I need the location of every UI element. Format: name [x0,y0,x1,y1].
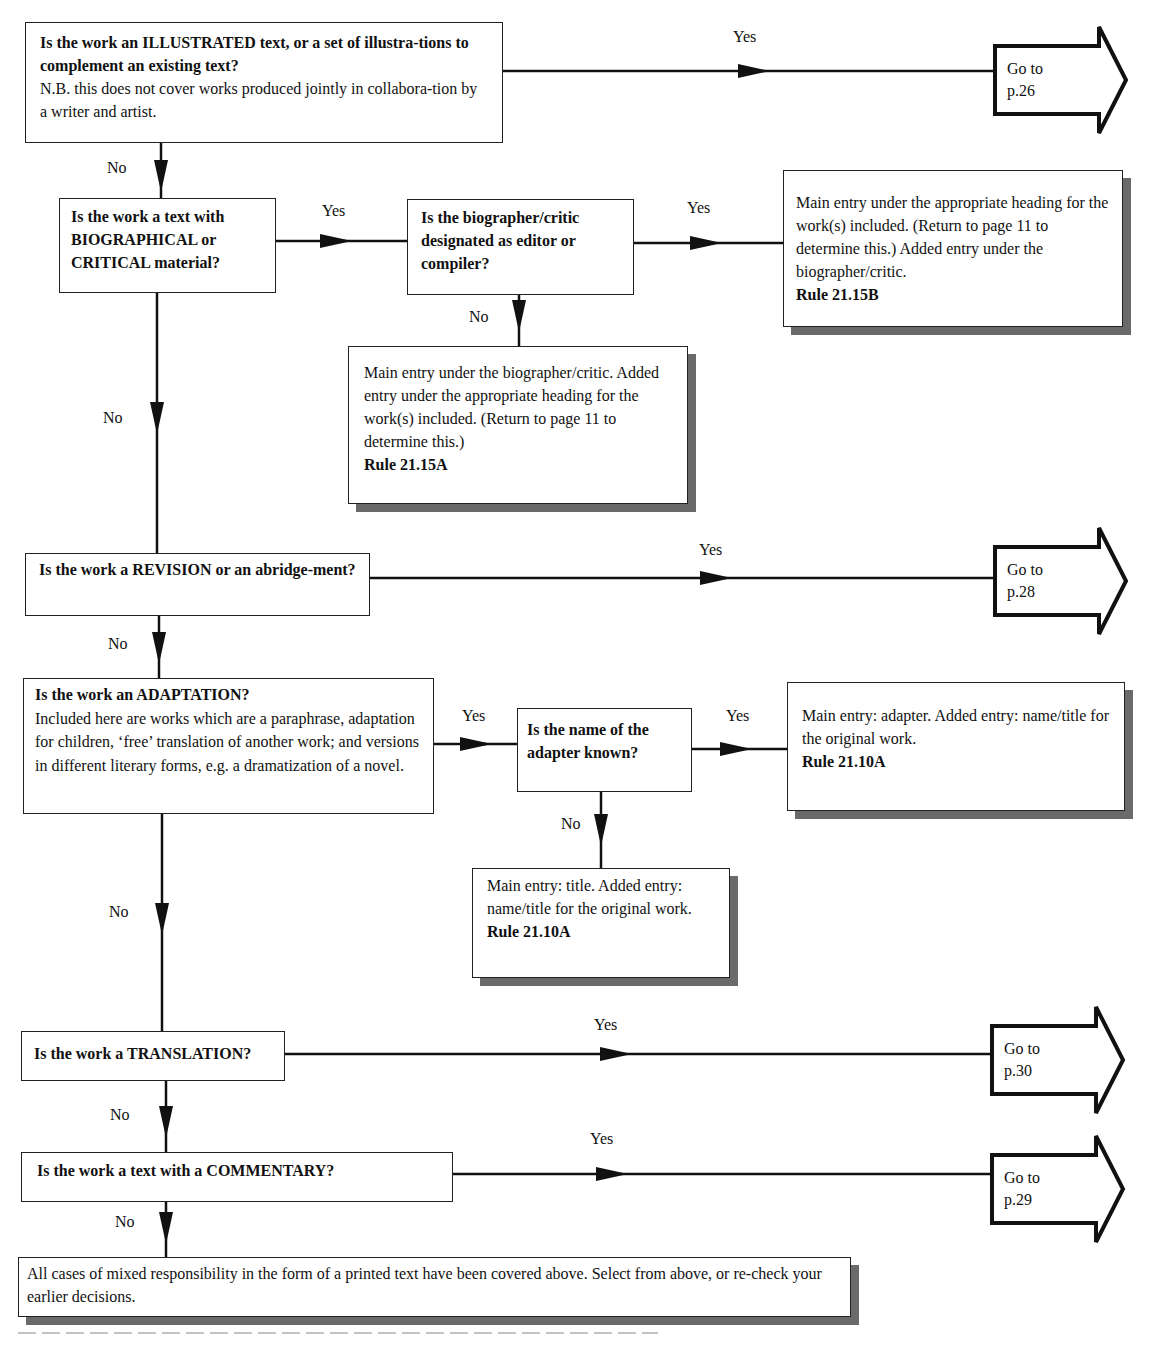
biographer-editor-question-text: Is the biographer/critic designated as e… [421,209,579,272]
rule-21-15B-label: Rule 21.15B [796,283,1110,306]
node-rule-21-15A: Main entry under the biographer/critic. … [348,346,688,504]
edge-label-no: No [107,159,127,177]
revision-question-text: Is the work a REVISION or an abridge-men… [39,561,356,578]
edge-label-yes: Yes [687,199,710,217]
node-biographical-question: Is the work a text with BIOGRAPHICAL or … [59,198,276,293]
rule-21-10A-title-text: Main entry: title. Added entry: name/tit… [487,874,715,920]
rule-21-15A-text: Main entry under the biographer/critic. … [364,361,672,453]
adapter-known-question-text: Is the name of the adapter known? [527,721,649,761]
edge-label-yes: Yes [699,541,722,559]
all-covered-text: All cases of mixed responsibility in the… [27,1262,842,1308]
goto-p30-text: Go top.30 [1004,1038,1040,1082]
adaptation-question-text: Is the work an ADAPTATION? [35,683,422,707]
rule-21-10A-adapter-label: Rule 21.10A [802,750,1110,773]
node-illustrated-question: Is the work an ILLUSTRATED text, or a se… [25,22,503,143]
goto-p26-text: Go top.26 [1007,58,1043,102]
biographical-question-text: Is the work a text with BIOGRAPHICAL or … [71,208,224,271]
rule-21-15B-text: Main entry under the appropriate heading… [796,191,1110,283]
edge-label-yes: Yes [462,707,485,725]
node-rule-21-10A-adapter: Main entry: adapter. Added entry: name/t… [787,682,1125,811]
edge-label-yes: Yes [733,28,756,46]
node-translation-question: Is the work a TRANSLATION? [21,1031,285,1081]
node-rule-21-15B: Main entry under the appropriate heading… [783,170,1123,327]
flowchart-canvas: Is the work an ILLUSTRATED text, or a se… [0,0,1151,1345]
edge-label-no: No [115,1213,135,1231]
commentary-question-text: Is the work a text with a COMMENTARY? [37,1162,334,1179]
edge-label-no: No [561,815,581,833]
rule-21-15A-label: Rule 21.15A [364,453,672,476]
node-rule-21-10A-title: Main entry: title. Added entry: name/tit… [472,868,730,978]
edge-label-yes: Yes [594,1016,617,1034]
rule-21-10A-adapter-text: Main entry: adapter. Added entry: name/t… [802,704,1110,750]
node-all-covered: All cases of mixed responsibility in the… [18,1257,851,1317]
goto-p29-text: Go top.29 [1004,1167,1040,1211]
goto-p28-text: Go top.28 [1007,559,1043,603]
edge-label-yes: Yes [726,707,749,725]
edge-label-no: No [469,308,489,326]
node-biographer-editor-question: Is the biographer/critic designated as e… [407,199,634,295]
goto-p28-arrow[interactable]: Go top.28 [993,525,1129,637]
rule-21-10A-title-label: Rule 21.10A [487,920,715,943]
edge-label-no: No [103,409,123,427]
edge-label-yes: Yes [322,202,345,220]
node-adapter-known-question: Is the name of the adapter known? [517,708,692,792]
node-adaptation-question: Is the work an ADAPTATION? Included here… [23,678,434,814]
adaptation-note-text: Included here are works which are a para… [35,707,422,778]
node-commentary-question: Is the work a text with a COMMENTARY? [21,1152,453,1202]
edge-label-no: No [108,635,128,653]
goto-p30-arrow[interactable]: Go top.30 [990,1004,1126,1116]
goto-p29-arrow[interactable]: Go top.29 [990,1133,1126,1245]
illustrated-question-text: Is the work an ILLUSTRATED text, or a se… [40,31,488,77]
goto-p26-arrow[interactable]: Go top.26 [993,24,1129,136]
edge-label-no: No [110,1106,130,1124]
cropped-text-fragment [18,1326,658,1338]
translation-question-text: Is the work a TRANSLATION? [34,1045,251,1062]
node-revision-question: Is the work a REVISION or an abridge-men… [25,553,370,616]
illustrated-note-text: N.B. this does not cover works produced … [40,77,488,123]
edge-label-yes: Yes [590,1130,613,1148]
edge-label-no: No [109,903,129,921]
